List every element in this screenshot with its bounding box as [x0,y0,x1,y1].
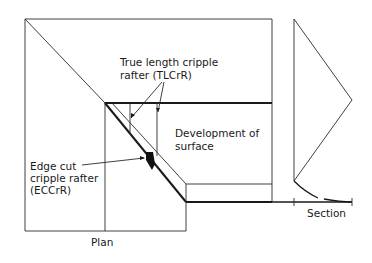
eccr-label-line3: (ECCrR) [30,184,71,196]
section-lower-slope [294,100,352,181]
section-label: Section [307,207,346,219]
tlcr-leader-2 [158,82,164,112]
development-of-surface [105,19,272,202]
development-label-line2: surface [175,140,214,152]
eccr-arrowhead [140,156,145,160]
plan-label: Plan [91,236,113,248]
eccr-leader [82,158,144,165]
development-hip-edge [105,103,186,202]
development-label-line1: Development of [175,127,259,139]
section-curve-1 [294,181,318,198]
tlcr-label-line2: rafter (TLCrR) [120,69,192,81]
section-view [272,19,352,206]
eccr-label-line2: cripple rafter [30,172,98,184]
edge-cut-cripple-rafter-shape [146,152,155,170]
eccr-label-line1: Edge cut [30,160,76,172]
hip-line-plan [25,19,105,103]
section-upper-slope [294,19,352,100]
plan-view [25,19,272,231]
tlcr-label-line1: True length cripple [120,56,218,68]
